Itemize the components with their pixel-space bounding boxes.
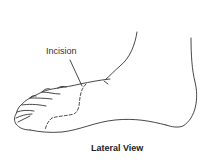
foot-diagram: Incision Lateral View	[0, 0, 210, 163]
toe-outline	[15, 88, 59, 130]
sole-line	[30, 119, 166, 132]
foot-outline-drawing	[0, 0, 210, 163]
ankle-front-line	[106, 32, 137, 79]
toe-line-1	[42, 92, 60, 94]
ankle-tick	[104, 81, 108, 84]
incision-pointer-line	[70, 60, 82, 86]
incision-dashed-line	[45, 84, 86, 130]
big-toe-bottom	[18, 116, 30, 122]
toe-line-4	[17, 110, 34, 112]
figure-caption: Lateral View	[91, 143, 143, 153]
incision-label: Incision	[46, 46, 77, 56]
toe-line-3	[22, 104, 46, 106]
toe-line-2	[30, 98, 52, 99]
heel-line	[166, 38, 197, 127]
